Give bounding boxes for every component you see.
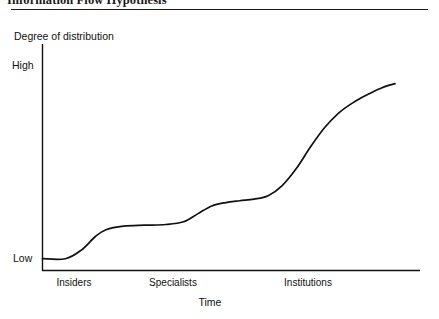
y-axis-tick-high: High xyxy=(12,59,34,71)
data-series-line xyxy=(43,84,396,260)
y-axis-tick-low: Low xyxy=(13,252,32,264)
chart-canvas xyxy=(0,0,439,319)
y-axis-title: Degree of distribution xyxy=(14,30,114,42)
x-axis-tick-specialists: Specialists xyxy=(138,277,208,288)
chart-plot-area: Degree of distribution High Low Insiders… xyxy=(0,0,439,319)
figure-container: Information Flow Hypothesis Degree of di… xyxy=(0,0,439,319)
x-axis-title: Time xyxy=(150,296,270,308)
x-axis-tick-institutions: Institutions xyxy=(270,277,346,288)
x-axis-tick-insiders: Insiders xyxy=(44,277,104,288)
